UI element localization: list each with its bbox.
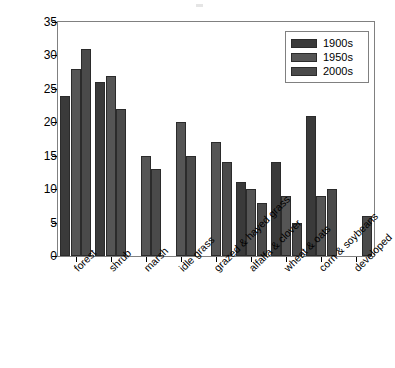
chart-legend: 1900s1950s2000s	[285, 31, 369, 83]
y-tick: 15	[29, 156, 57, 166]
legend-item: 1900s	[291, 36, 363, 50]
bar	[151, 169, 161, 256]
y-tick: 35	[29, 22, 57, 32]
bar	[60, 96, 70, 256]
y-tick: 10	[29, 189, 57, 199]
scan-artifact	[196, 4, 203, 7]
y-tick: 5	[29, 223, 57, 233]
legend-label: 1900s	[323, 38, 353, 49]
legend-item: 1950s	[291, 50, 363, 64]
legend-swatch	[291, 53, 317, 62]
legend-label: 2000s	[323, 66, 353, 77]
legend-item: 2000s	[291, 64, 363, 78]
bar	[81, 49, 91, 256]
legend-swatch	[291, 39, 317, 48]
bar	[106, 76, 116, 257]
bar	[71, 69, 81, 256]
bar	[95, 82, 105, 256]
bar	[176, 122, 186, 256]
y-tick: 30	[29, 55, 57, 65]
legend-label: 1950s	[323, 52, 353, 63]
legend-swatch	[291, 67, 317, 76]
bar	[141, 156, 151, 256]
y-tick: 0	[29, 256, 57, 266]
bar	[222, 162, 232, 256]
y-tick: 20	[29, 122, 57, 132]
bar	[186, 156, 196, 256]
bar	[116, 109, 126, 256]
y-tick: 25	[29, 89, 57, 99]
